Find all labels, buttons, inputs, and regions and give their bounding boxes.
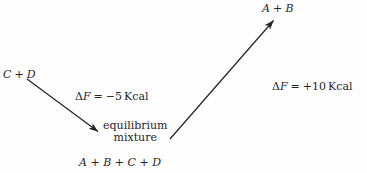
delta-f-forward-value: −5 [106, 90, 122, 103]
arrow-cd-to-equilibrium [27, 79, 98, 132]
plus-operator: + [137, 156, 152, 169]
delta-symbol: Δ [272, 80, 280, 93]
species-symbol-c-mix: C [127, 156, 136, 169]
species-symbol-b-top: B [285, 2, 294, 15]
species-label-reactants-left: C+D [3, 69, 36, 80]
arrow-equilibrium-to-ab [170, 21, 274, 140]
energy-unit: Kcal [122, 90, 148, 103]
species-symbol-d-mix: D [152, 156, 162, 169]
species-symbol-a-mix: A [79, 156, 88, 169]
plus-operator: + [12, 68, 27, 81]
equals-sign: = [288, 80, 303, 93]
equilibrium-caption-line2: mixture [103, 132, 168, 144]
free-energy-symbol: F [280, 80, 288, 93]
species-label-products-top: A+B [262, 3, 294, 14]
species-symbol-b-mix: B [103, 156, 112, 169]
plus-operator: + [88, 156, 103, 169]
plus-operator: + [271, 2, 286, 15]
species-symbol-d-left: D [27, 68, 36, 81]
delta-symbol: Δ [75, 90, 83, 103]
species-label-equilibrium-mixture: A+B+C+D [79, 157, 162, 168]
delta-f-reverse-value: +10 [303, 80, 326, 93]
species-symbol-a-top: A [262, 2, 271, 15]
free-energy-symbol: F [83, 90, 91, 103]
delta-f-forward-label: ΔF=−5Kcal [75, 91, 149, 102]
species-symbol-c-left: C [3, 68, 12, 81]
energy-unit: Kcal [326, 80, 352, 93]
equilibrium-mixture-caption: equilibrium mixture [103, 120, 168, 145]
reaction-energy-diagram: A+B C+D ΔF=−5Kcal ΔF=+10Kcal equilibrium… [0, 0, 367, 173]
equals-sign: = [91, 90, 106, 103]
plus-operator: + [112, 156, 127, 169]
delta-f-reverse-label: ΔF=+10Kcal [272, 81, 353, 92]
